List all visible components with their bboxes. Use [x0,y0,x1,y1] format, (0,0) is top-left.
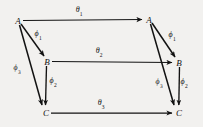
node-c-left: C [43,109,49,118]
edge-phi-2-left [46,66,47,105]
edge-label-phi-2-left: ϕ2 [50,77,57,87]
edge-phi-2-right [179,67,180,105]
edge-label-theta-1: θ1 [76,6,83,16]
node-b-right: B [176,59,182,68]
edge-label-phi-2-right: ϕ2 [181,78,188,88]
phi-1-left-subscript: 1 [39,35,42,41]
edge-label-phi-3-left: ϕ3 [13,64,20,74]
phi-2-left-subscript: 2 [54,82,57,88]
phi-1-right-subscript: 1 [173,36,176,42]
edge-label-phi-1-left: ϕ1 [35,30,42,40]
phi-2-right-subscript: 2 [185,83,188,89]
diagram-canvas: A B C A B C θ1 θ2 θ3 ϕ1 ϕ2 ϕ3 ϕ1 ϕ2 ϕ3 [0,0,203,127]
phi-3-right-subscript: 3 [160,82,163,88]
theta-2-subscript: 2 [100,52,103,58]
edge-label-phi-1-right: ϕ1 [169,31,176,41]
edge-theta-2 [52,62,172,63]
edge-theta-1 [23,20,142,21]
edge-label-theta-2: θ2 [96,47,103,57]
phi-3-left-subscript: 3 [18,68,21,74]
node-b-left: B [44,58,50,67]
theta-1-subscript: 1 [80,11,83,17]
node-c-right: C [176,109,182,118]
theta-3-subscript: 3 [102,104,105,110]
node-a-right: A [146,16,152,25]
edge-label-phi-3-right: ϕ3 [155,78,162,88]
node-a-left: A [15,17,21,26]
edge-label-theta-3: θ3 [98,99,105,109]
